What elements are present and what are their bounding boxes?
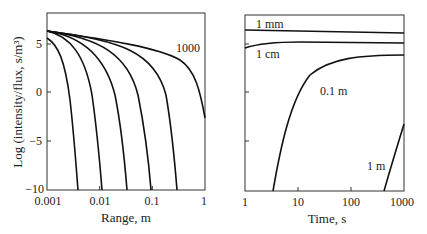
curve-1m xyxy=(384,124,404,191)
time-tick-1000: 1000 xyxy=(390,195,414,209)
x-tick-0.01: 0.01 xyxy=(90,194,111,208)
label-1cm: 1 cm xyxy=(256,47,280,61)
y-tick-0: 0 xyxy=(36,85,42,99)
x-tick-0.1: 0.1 xyxy=(145,194,160,208)
time-tick-1: 1 xyxy=(242,195,248,209)
curve-1 xyxy=(47,38,78,190)
curve-label-1000: 1000 xyxy=(176,41,200,55)
label-0.1m: 0.1 m xyxy=(320,84,348,98)
right-plot: 1 10 100 1000 Time, s 1 mm 1 cm 0.1 m 1 … xyxy=(242,15,414,226)
right-x-axis-label: Time, s xyxy=(308,211,347,226)
label-1mm: 1 mm xyxy=(256,17,284,31)
y-tick-5: 5 xyxy=(36,37,42,51)
chart-figure: 5 0 −5 −10 0.001 0.01 0.1 1 Range, m Log… xyxy=(0,0,427,234)
y-tick-neg5: −5 xyxy=(29,134,42,148)
time-tick-100: 100 xyxy=(342,195,360,209)
curve-1mm xyxy=(245,30,404,33)
time-tick-10: 10 xyxy=(292,195,304,209)
x-tick-0.001: 0.001 xyxy=(35,194,62,208)
curve-5 xyxy=(47,31,177,190)
left-y-axis-label: Log (intensity/flux, s/m³) xyxy=(10,36,25,167)
curve-4 xyxy=(47,31,151,190)
left-plot: 5 0 −5 −10 0.001 0.01 0.1 1 Range, m Log… xyxy=(10,13,207,225)
x-tick-1: 1 xyxy=(201,194,207,208)
left-x-axis-label: Range, m xyxy=(101,210,151,225)
label-1m: 1 m xyxy=(367,159,386,173)
